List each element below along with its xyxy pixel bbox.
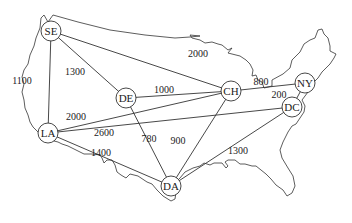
edge-weight-label: 800 [254,76,269,87]
edge-weight-label: 2600 [94,127,114,138]
node-label: DA [163,180,179,192]
edge-weight-label: 1300 [65,66,85,77]
edge-weight-label: 1400 [91,147,111,158]
graph-diagram: 2000130011001000200026001400780900130080… [0,0,352,223]
node-label: LA [41,127,56,139]
edge-se-ch [51,31,231,91]
node-ch: CH [221,81,241,101]
nodes: SEDECHNYDCLADA [38,21,315,196]
node-label: SE [45,25,58,37]
node-da: DA [161,176,181,196]
node-la: LA [38,123,58,143]
diagram-canvas: 2000130011001000200026001400780900130080… [0,0,352,223]
node-label: CH [223,85,238,97]
node-dc: DC [282,97,302,117]
edge-weight-label: 2000 [188,48,208,59]
edge-weight-label: 200 [272,89,287,100]
edges [48,31,305,186]
node-ny: NY [295,73,315,93]
node-label: DE [119,92,134,104]
edge-weight-label: 1300 [228,145,248,156]
edge-weight-label: 780 [142,133,157,144]
edge-weight-label: 1000 [154,84,174,95]
edge-weight-label: 2000 [66,111,86,122]
edge-se-la [48,31,51,133]
node-label: NY [297,77,313,89]
edge-weight-label: 900 [171,135,186,146]
edge-se-de [51,31,126,98]
node-de: DE [116,88,136,108]
node-label: DC [284,101,299,113]
node-se: SE [41,21,61,41]
edge-weight-label: 1100 [12,75,32,86]
